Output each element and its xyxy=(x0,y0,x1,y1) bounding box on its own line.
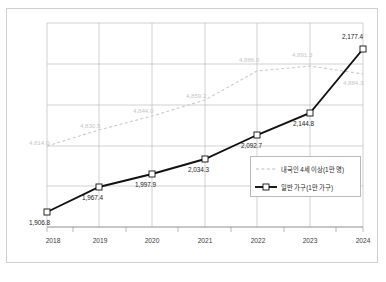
legend-label-domestic-pop: 내국인 4세 이상(1만 명) xyxy=(281,165,344,174)
data-label-black-2020: 1,997.9 xyxy=(135,182,156,188)
data-label-gray-2018: 4,814.0 xyxy=(29,140,49,146)
data-label-black-2018: 1,906.8 xyxy=(29,220,50,226)
data-label-black-2021: 2,034.3 xyxy=(188,167,209,173)
data-label-black-2022: 2,092.7 xyxy=(241,143,262,149)
x-tick-label-2022: 2022 xyxy=(243,237,273,244)
chart-figure: 4,814.0 4,830.5 4,844.0 4,859.2 4,886.0 … xyxy=(0,0,386,282)
x-tick-label-2021: 2021 xyxy=(190,237,220,244)
dashed-line-key xyxy=(251,162,281,176)
data-label-gray-2020: 4,844.0 xyxy=(133,108,153,114)
data-label-gray-2019: 4,830.5 xyxy=(80,123,100,129)
legend-label-general-household: 일반 가구(1만 가구) xyxy=(281,183,333,192)
x-tick-label-2020: 2020 xyxy=(137,237,167,244)
x-axis-ticks xyxy=(47,227,363,232)
data-label-black-2024: 2,177.4 xyxy=(342,34,363,40)
x-tick-label-2018: 2018 xyxy=(38,237,68,244)
chart-outer-frame: 4,814.0 4,830.5 4,844.0 4,859.2 4,886.0 … xyxy=(6,8,378,263)
x-tick-label-2019: 2019 xyxy=(85,237,115,244)
x-tick-label-2024: 2024 xyxy=(348,237,378,244)
legend-item-domestic-pop: 내국인 4세 이상(1만 명) xyxy=(251,160,362,178)
chart-plot-area xyxy=(7,9,377,262)
solid-line-square-marker-key xyxy=(251,180,281,194)
data-label-black-2019: 1,967.4 xyxy=(82,195,103,201)
data-label-gray-2022: 4,886.0 xyxy=(239,57,259,63)
data-label-gray-2021: 4,859.2 xyxy=(186,93,206,99)
data-label-gray-2023: 4,891.3 xyxy=(292,52,312,58)
x-tick-label-2023: 2023 xyxy=(295,237,325,244)
chart-legend: 내국인 4세 이상(1만 명) 일반 가구(1만 가구) xyxy=(250,156,361,197)
legend-item-general-household: 일반 가구(1만 가구) xyxy=(251,178,362,196)
data-label-black-2023: 2,144.8 xyxy=(293,121,314,127)
data-label-gray-2024: 4,884.3 xyxy=(343,80,363,86)
